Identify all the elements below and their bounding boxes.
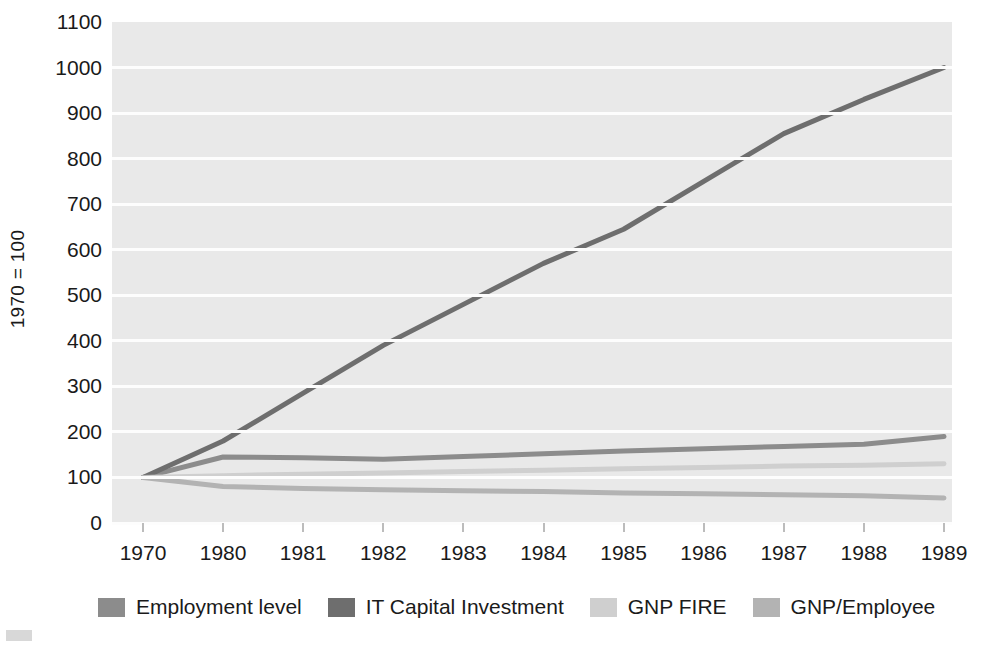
gridline (112, 203, 952, 206)
x-tick-mark (703, 523, 705, 532)
x-tick-label: 1984 (504, 542, 584, 563)
x-tick-label: 1989 (904, 542, 984, 563)
legend-item[interactable]: Employment level (98, 595, 302, 619)
y-tick-label: 1000 (12, 57, 102, 78)
legend-swatch-icon (590, 598, 617, 617)
gridline (112, 430, 952, 433)
x-tick-label: 1982 (343, 542, 423, 563)
x-axis-tick-labels: 1970198019811982198319841985198619871988… (112, 523, 952, 573)
legend-item[interactable]: GNP/Employee (753, 595, 936, 619)
y-tick-label: 200 (12, 421, 102, 442)
series-lines (112, 22, 952, 523)
legend-swatch-icon (98, 598, 125, 617)
gridline (112, 294, 952, 297)
x-tick-label: 1986 (664, 542, 744, 563)
series-line (143, 68, 944, 478)
x-tick-mark (222, 523, 224, 532)
plot-area (112, 22, 952, 523)
x-tick-label: 1985 (584, 542, 664, 563)
x-tick-mark (623, 523, 625, 532)
y-axis-tick-labels: 010020030040050060070080090010001100 (10, 0, 102, 648)
legend-label: GNP FIRE (628, 595, 727, 619)
y-tick-label: 400 (12, 330, 102, 351)
gridline (112, 385, 952, 388)
gridline (112, 157, 952, 160)
x-tick-label: 1988 (824, 542, 904, 563)
line-chart: 1970 = 100 01002003004005006007008009001… (0, 0, 989, 648)
y-tick-label: 300 (12, 375, 102, 396)
legend-label: Employment level (136, 595, 302, 619)
series-line (143, 477, 944, 498)
y-tick-label: 0 (12, 512, 102, 533)
gridline (112, 476, 952, 479)
y-tick-label: 100 (12, 466, 102, 487)
legend-item[interactable]: IT Capital Investment (328, 595, 564, 619)
y-tick-label: 1100 (12, 11, 102, 32)
legend-item[interactable]: GNP FIRE (590, 595, 727, 619)
y-tick-label: 600 (12, 239, 102, 260)
legend-swatch-icon (328, 598, 355, 617)
gridline (112, 66, 952, 69)
legend-label: IT Capital Investment (366, 595, 564, 619)
x-tick-mark (943, 523, 945, 532)
x-tick-mark (462, 523, 464, 532)
y-tick-label: 900 (12, 102, 102, 123)
x-tick-label: 1970 (103, 542, 183, 563)
x-tick-mark (783, 523, 785, 532)
gridline (112, 112, 952, 115)
chart-legend: Employment levelIT Capital InvestmentGNP… (98, 590, 961, 624)
y-tick-label: 500 (12, 284, 102, 305)
x-tick-label: 1987 (744, 542, 824, 563)
x-tick-mark (142, 523, 144, 532)
legend-swatch-icon (753, 598, 780, 617)
y-tick-label: 700 (12, 193, 102, 214)
gridline (112, 339, 952, 342)
legend-label: GNP/Employee (791, 595, 936, 619)
gridline (112, 248, 952, 251)
x-tick-mark (302, 523, 304, 532)
x-tick-mark (543, 523, 545, 532)
x-tick-label: 1980 (183, 542, 263, 563)
y-tick-label: 800 (12, 148, 102, 169)
x-tick-label: 1981 (263, 542, 343, 563)
x-tick-mark (863, 523, 865, 532)
corner-mark (6, 630, 32, 641)
x-tick-label: 1983 (423, 542, 503, 563)
x-tick-mark (382, 523, 384, 532)
